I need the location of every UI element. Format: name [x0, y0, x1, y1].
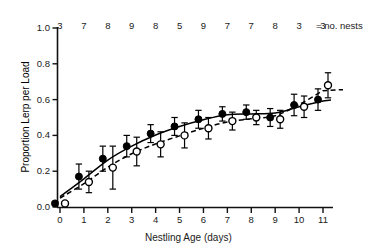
- nest-count-label: 7: [241, 20, 261, 31]
- nest-count-label: 9: [122, 20, 142, 31]
- x-tick-label: 6: [193, 214, 213, 225]
- nest-count-label: 7: [217, 20, 237, 31]
- y-tick-label: 1.0: [26, 22, 50, 33]
- x-tick-label: 7: [217, 214, 237, 225]
- x-tick-label: 0: [50, 214, 70, 225]
- x-axis-ticks: [60, 208, 323, 214]
- fitted-curve-solid: [60, 100, 331, 197]
- nest-count-label: 8: [265, 20, 285, 31]
- x-tick-label: 2: [98, 214, 118, 225]
- y-axis-title: Proportion Lerp per Load: [20, 61, 31, 172]
- nest-count-label: 3: [289, 20, 309, 31]
- nest-count-label: 5: [170, 20, 190, 31]
- nest-count-label: 3: [50, 20, 70, 31]
- y-tick-label: 0.0: [26, 201, 50, 212]
- error-bars-open-series: [62, 73, 331, 205]
- x-tick-label: 4: [146, 214, 166, 225]
- data-markers-open-series: [62, 82, 332, 207]
- x-tick-label: 8: [241, 214, 261, 225]
- x-tick-label: 3: [122, 214, 142, 225]
- x-tick-label: 9: [265, 214, 285, 225]
- chart-figure: 1.00.80.60.40.20.0 01234567891011 378985…: [0, 0, 388, 252]
- x-tick-label: 5: [170, 214, 190, 225]
- data-markers-filled-series: [52, 96, 322, 207]
- legend-nest-label: = no. nests: [316, 20, 363, 31]
- x-axis-title: Nestling Age (days): [145, 232, 232, 243]
- y-axis-title-wrap: Proportion Lerp per Load: [15, 47, 33, 187]
- nest-count-label: 8: [98, 20, 118, 31]
- error-bars-filled-series: [52, 89, 321, 205]
- nest-count-label: 7: [74, 20, 94, 31]
- x-tick-label: 10: [289, 214, 309, 225]
- x-tick-label: 1: [74, 214, 94, 225]
- nest-count-label: 8: [146, 20, 166, 31]
- nest-count-label: 9: [193, 20, 213, 31]
- x-tick-label: 11: [313, 214, 333, 225]
